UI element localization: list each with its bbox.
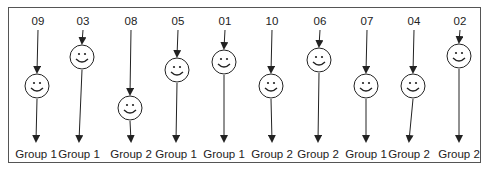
eye-icon [126,104,128,106]
arrow-down-icon [459,30,460,42]
participant-01 [212,30,236,141]
arrow-down-icon [271,99,272,141]
arrow-down-icon [177,30,178,56]
group-assignment-label: Group 1 [345,148,387,160]
participant-07 [354,30,378,141]
eye-icon [461,52,463,54]
participant-id-label: 08 [125,15,138,27]
arrow-down-icon [413,30,414,72]
participant-id-label: 06 [314,15,327,27]
arrow-down-icon [224,30,225,48]
smiley-face-icon [259,74,283,98]
participant-id-label: 05 [172,15,185,27]
group-assignment-label: Group 2 [251,148,293,160]
eye-icon [415,82,417,84]
arrow-down-icon [82,30,83,43]
smiley-face-icon [165,58,189,82]
participant-02 [447,30,471,141]
arrow-down-icon [318,73,319,141]
eye-icon [78,53,80,55]
group-assignment-label: Group 1 [58,148,100,160]
eye-icon [273,82,275,84]
participant-08 [118,30,142,141]
eye-icon [132,104,134,106]
eye-icon [84,53,86,55]
arrow-down-icon [366,30,367,72]
arrow-down-icon [37,30,38,72]
eye-icon [368,82,370,84]
random-assignment-diagram: 09Group 103Group 108Group 205Group 101Gr… [0,0,497,172]
eye-icon [455,52,457,54]
arrow-down-icon [130,121,131,141]
arrow-down-icon [271,30,272,72]
smiley-face-icon [401,74,425,98]
participant-id-label: 02 [454,15,467,27]
group-assignment-label: Group 1 [155,148,197,160]
smiley-face-icon [307,48,331,72]
participant-id-label: 09 [32,15,45,27]
arrow-down-icon [319,30,320,46]
eye-icon [315,56,317,58]
arrow-down-icon [409,99,413,141]
participant-04 [401,30,425,141]
group-assignment-label: Group 1 [15,148,57,160]
diagram-canvas [0,0,497,172]
participant-id-label: 07 [361,15,374,27]
eye-icon [173,66,175,68]
smiley-face-icon [447,44,471,68]
participant-06 [307,30,331,141]
group-assignment-label: Group 2 [110,148,152,160]
eye-icon [321,56,323,58]
eye-icon [409,82,411,84]
arrow-down-icon [176,83,177,141]
smiley-face-icon [70,45,94,69]
participant-id-label: 03 [77,15,90,27]
arrow-down-icon [130,30,131,94]
participant-id-label: 04 [408,15,421,27]
eye-icon [226,58,228,60]
group-assignment-label: Group 2 [297,148,339,160]
eye-icon [267,82,269,84]
smiley-face-icon [25,74,49,98]
eye-icon [39,82,41,84]
eye-icon [220,58,222,60]
group-assignment-label: Group 2 [438,148,480,160]
eye-icon [33,82,35,84]
arrow-down-icon [36,99,37,141]
smiley-face-icon [118,96,142,120]
participant-05 [165,30,189,141]
smiley-face-icon [354,74,378,98]
arrow-down-icon [79,70,82,141]
eye-icon [362,82,364,84]
participant-id-label: 01 [219,15,232,27]
group-assignment-label: Group 2 [388,148,430,160]
participant-id-label: 10 [266,15,279,27]
smiley-face-icon [212,50,236,74]
participant-03 [70,30,94,141]
eye-icon [179,66,181,68]
participant-09 [25,30,49,141]
group-assignment-label: Group 1 [203,148,245,160]
participant-10 [259,30,283,141]
